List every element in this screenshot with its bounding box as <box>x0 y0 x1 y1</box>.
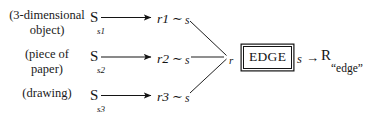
descriptor-line-1: (piece of <box>4 47 90 62</box>
rhs-sign: s <box>297 49 302 67</box>
rhs-arrow: → <box>306 48 319 66</box>
target-row-3: r3 <box>157 87 169 105</box>
subscript-index-row-1: 1 <box>101 26 106 36</box>
relation-row-1: ∼ <box>172 9 183 27</box>
descriptor-drawing: (drawing) <box>4 86 90 101</box>
rhs-representation: R <box>321 46 331 64</box>
descriptor-line-1: (drawing) <box>4 86 90 101</box>
target-row-2: r2 <box>157 49 169 67</box>
edge-box: EDGE <box>243 46 292 69</box>
subscript-index-row-3: 3 <box>101 104 106 114</box>
source-subscript-row-2: s2 <box>97 59 105 77</box>
target-index-row-3: 3 <box>162 89 169 104</box>
source-subscript-row-3: s3 <box>97 98 105 116</box>
referent-r: r <box>229 50 233 68</box>
tilde-row-1: ∼ <box>172 11 183 26</box>
subscript-index-row-2: 2 <box>101 65 106 75</box>
convergence-lines <box>190 21 227 93</box>
sign-s-row-3: s <box>185 92 189 104</box>
rhs-subscript: “edge” <box>331 58 363 76</box>
sign-s-row-2: s <box>185 54 189 66</box>
diagram-canvas: r1 --> r2 --> r3 --> (3-dimensional obje… <box>0 0 369 123</box>
descriptor-line-1: (3-dimensional <box>4 8 90 23</box>
sign-row-1: s <box>185 10 189 28</box>
source-subscript-row-1: s1 <box>97 20 105 38</box>
descriptor-line-2: object) <box>4 23 90 38</box>
rhs-s-symbol: s <box>297 52 302 66</box>
sign-s-row-1: s <box>185 14 189 26</box>
sign-row-2: s <box>185 50 189 68</box>
descriptor-3d-object: (3-dimensional object) <box>4 8 90 37</box>
relation-row-3: ∼ <box>172 87 183 105</box>
target-row-1: r1 <box>157 9 169 27</box>
edge-box-label: EDGE <box>249 49 286 64</box>
rhs-R-symbol: R <box>321 47 331 63</box>
tilde-row-2: ∼ <box>172 51 183 66</box>
tilde-row-3: ∼ <box>172 89 183 104</box>
rhs-arrow-glyph: → <box>306 50 319 65</box>
target-index-row-1: 1 <box>162 11 169 26</box>
sign-row-3: s <box>185 88 189 106</box>
descriptor-piece-of-paper: (piece of paper) <box>4 47 90 76</box>
rhs-subscript-quoted: “edge” <box>331 62 363 74</box>
relation-row-2: ∼ <box>172 49 183 67</box>
target-index-row-2: 2 <box>162 51 169 66</box>
descriptor-line-2: paper) <box>4 62 90 77</box>
referent-r-label: r <box>229 54 233 66</box>
